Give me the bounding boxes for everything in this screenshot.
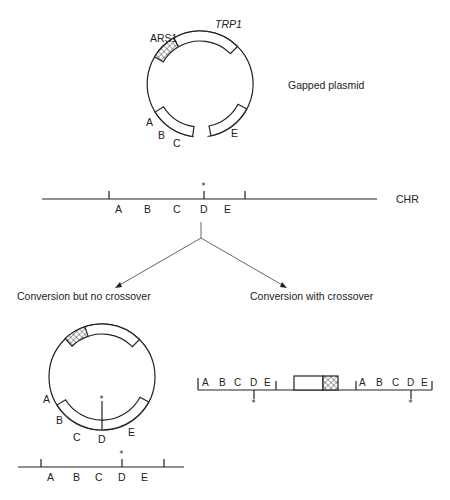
unchanged-marker-d: D (118, 471, 126, 483)
repaired-label-b: B (56, 414, 63, 426)
left-copy-e: E (264, 377, 271, 388)
left-copy-a: A (202, 377, 209, 388)
branch-arrows: Conversion but no crossover Conversion w… (17, 222, 374, 302)
repaired-label-c: C (73, 431, 81, 443)
chr-marker-e: E (224, 203, 231, 215)
unchanged-marker-b: B (73, 471, 80, 483)
left-copy-star: * (252, 399, 256, 408)
unchanged-marker-a: A (47, 471, 54, 483)
arrow-right-head-icon (280, 282, 287, 288)
trp1-label: TRP1 (215, 18, 242, 30)
chr-marker-c: C (173, 203, 181, 215)
right-copy-b: B (376, 377, 383, 388)
left-copy-c: C (234, 377, 241, 388)
gap-right-segment (209, 104, 247, 136)
trp1-segment (174, 31, 238, 54)
result-crossover: A B C D E * A B C D E * (198, 376, 432, 408)
repaired-label-e: E (128, 426, 135, 438)
chr-label: CHR (396, 193, 419, 205)
right-copy-a: A (359, 377, 366, 388)
chromosome: * A B C D E CHR (42, 182, 419, 215)
repaired-ars1-segment (65, 327, 88, 346)
left-copy-d: D (250, 377, 257, 388)
chr-marker-b: B (144, 203, 151, 215)
unchanged-marker-c: C (95, 471, 103, 483)
unchanged-mutation-star: * (120, 450, 124, 459)
result-no-crossover: * A B C D E * A B C D E (18, 324, 184, 483)
mutation-star: * (202, 182, 206, 191)
right-copy-e: E (421, 377, 428, 388)
vector-trp1-box (294, 376, 323, 390)
right-copy-star: * (409, 399, 413, 408)
unchanged-marker-e: E (141, 471, 148, 483)
vector-ars1-box (323, 376, 338, 390)
arrow-left-line (118, 238, 201, 286)
arrow-left-head-icon (115, 282, 122, 288)
repaired-label-a: A (43, 393, 50, 405)
marker-a-label: A (146, 116, 153, 128)
branch-left-label: Conversion but no crossover (17, 290, 151, 302)
ars1-label: ARS1 (150, 32, 178, 44)
repaired-mutation-star: * (100, 395, 104, 404)
gapped-plasmid-title: Gapped plasmid (288, 79, 365, 91)
gene-conversion-diagram: ARS1 TRP1 A B C E Gapped plasmid * A B C… (0, 0, 450, 500)
gapped-plasmid: ARS1 TRP1 A B C E Gapped plasmid (146, 18, 365, 149)
marker-e-label: E (231, 127, 238, 139)
right-copy-d: D (407, 377, 414, 388)
marker-c-label: C (173, 137, 181, 149)
chr-marker-d: D (200, 203, 208, 215)
left-copy-b: B (219, 377, 226, 388)
arrow-right-line (201, 238, 284, 286)
chr-marker-a: A (115, 203, 122, 215)
branch-right-label: Conversion with crossover (250, 290, 374, 302)
marker-b-label: B (158, 129, 165, 141)
right-copy-c: C (392, 377, 399, 388)
repaired-label-d: D (98, 433, 106, 445)
